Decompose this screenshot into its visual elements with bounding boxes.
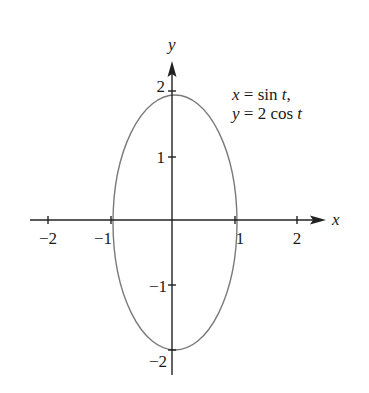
y-tick-label: −1: [149, 277, 167, 296]
ellipse-curve: [113, 95, 237, 350]
x-tick-label: 2: [293, 229, 302, 248]
equation-line-1: x = sin t,: [231, 85, 291, 104]
x-axis: −2 −1 1 2 x: [30, 210, 340, 248]
x-tick-label: −1: [94, 229, 112, 248]
equation-line-2: y = 2 cos t: [230, 104, 303, 123]
y-tick-label: −2: [149, 352, 167, 371]
x-axis-label: x: [331, 210, 340, 229]
y-axis: 2 1 −1 −2 y: [149, 35, 177, 375]
parametric-ellipse-figure: −2 −1 1 2 x 2 1 −1 −2 y x = sin t, y = 2…: [0, 0, 369, 393]
y-axis-label: y: [166, 35, 176, 54]
y-tick-label: 2: [157, 77, 166, 96]
y-tick-label: 1: [157, 148, 166, 167]
x-tick-label: 1: [236, 229, 245, 248]
equation-annotation: x = sin t, y = 2 cos t: [230, 85, 303, 123]
x-tick-label: −2: [39, 229, 57, 248]
